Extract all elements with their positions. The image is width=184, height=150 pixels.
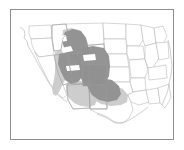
primary-range-colorado-block bbox=[82, 64, 107, 86]
kentucky-tennessee bbox=[148, 65, 167, 80]
michigan bbox=[154, 26, 167, 44]
southeast bbox=[158, 84, 171, 108]
missouri bbox=[129, 59, 148, 78]
minnesota bbox=[126, 24, 143, 46]
oregon bbox=[31, 38, 54, 57]
figure-container bbox=[0, 0, 184, 150]
arkansas bbox=[130, 78, 146, 92]
gap-nevada-interior bbox=[66, 65, 80, 71]
north-dakota bbox=[103, 23, 126, 39]
washington bbox=[29, 25, 52, 39]
south-dakota bbox=[104, 39, 127, 54]
map-frame bbox=[10, 9, 174, 140]
gap-wyoming-basin bbox=[83, 54, 96, 61]
iowa bbox=[127, 46, 145, 60]
us-distribution-map bbox=[11, 10, 173, 139]
